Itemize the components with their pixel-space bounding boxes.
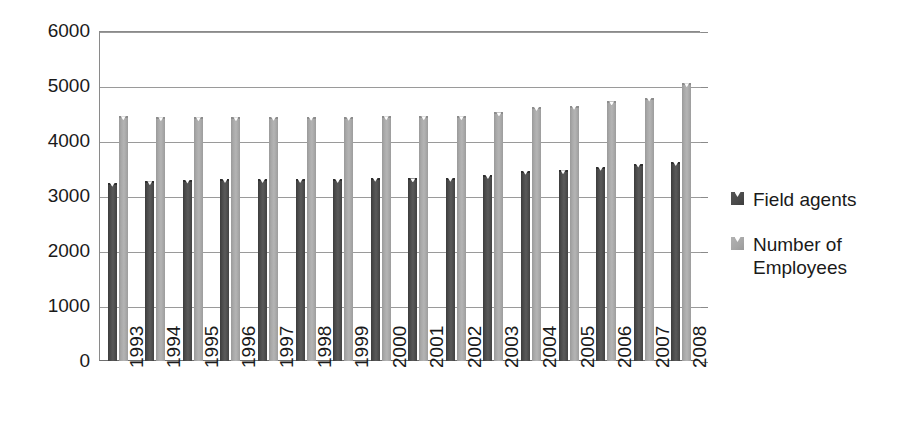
- x-axis-tick-value: 2002: [464, 326, 486, 368]
- bar: [307, 117, 316, 361]
- axis-tick: [701, 197, 708, 198]
- bar-group: [258, 31, 278, 361]
- bar: [494, 112, 503, 361]
- legend-label: Number of Employees: [753, 233, 896, 279]
- bar-top-notch-icon: [572, 106, 577, 110]
- bar-top-notch-icon: [598, 167, 603, 171]
- x-axis-tick-label: 2008: [670, 366, 692, 436]
- bar-group: [559, 31, 579, 361]
- bar: [532, 107, 541, 361]
- bar-group: [220, 31, 240, 361]
- swatch-notch-icon: [735, 237, 741, 242]
- bar: [344, 117, 353, 361]
- bar-group: [483, 31, 503, 361]
- bar-top-notch-icon: [147, 181, 152, 185]
- x-axis-tick-label: 1998: [295, 366, 317, 436]
- bar-top-notch-icon: [196, 117, 201, 121]
- bar-top-notch-icon: [448, 178, 453, 182]
- axis-tick: [701, 142, 708, 143]
- bar-top-notch-icon: [410, 178, 415, 182]
- x-axis-tick-label: 2005: [558, 366, 580, 436]
- bar-top-notch-icon: [373, 178, 378, 182]
- bar-chart: 0100020003000400050006000 19931994199519…: [0, 0, 902, 448]
- bar-group: [521, 31, 541, 361]
- x-axis-tick-labels: 1993199419951996199719981999200020012002…: [99, 366, 700, 446]
- bar-top-notch-icon: [185, 180, 190, 184]
- swatch-notch-icon: [735, 192, 741, 197]
- bar-top-notch-icon: [496, 112, 501, 116]
- bar-series-layer: [99, 31, 700, 361]
- bar-top-notch-icon: [421, 116, 426, 120]
- bar-top-notch-icon: [260, 179, 265, 183]
- bar: [194, 117, 203, 361]
- bar-top-notch-icon: [346, 117, 351, 121]
- bar-top-notch-icon: [309, 117, 314, 121]
- bar-group: [634, 31, 654, 361]
- dark-square-swatch: [731, 192, 744, 205]
- x-axis-tick-value: 2005: [577, 326, 599, 368]
- bar-group: [333, 31, 353, 361]
- bar-top-notch-icon: [110, 183, 115, 187]
- bar-top-notch-icon: [121, 116, 126, 120]
- legend-item[interactable]: Number of Employees: [731, 233, 896, 279]
- x-axis-tick-value: 1999: [351, 326, 373, 368]
- light-square-swatch: [731, 237, 744, 250]
- x-axis-tick-value: 2003: [501, 326, 523, 368]
- axis-tick: [701, 87, 708, 88]
- bar: [269, 117, 278, 361]
- x-axis-tick-value: 2004: [539, 326, 561, 368]
- bar-group: [671, 31, 691, 361]
- x-axis-tick-value: 2001: [426, 326, 448, 368]
- y-axis-tick-value: 4000: [48, 131, 90, 150]
- bar: [607, 101, 616, 361]
- x-axis-tick-label: 2002: [445, 366, 467, 436]
- x-axis-tick-label: 2003: [482, 366, 504, 436]
- x-axis-tick-label: 2000: [370, 366, 392, 436]
- bar-top-notch-icon: [459, 116, 464, 120]
- x-axis-tick-label: 1996: [219, 366, 241, 436]
- x-axis-tick-label: 2004: [520, 366, 542, 436]
- x-axis-tick-value: 1998: [314, 326, 336, 368]
- bar-group: [408, 31, 428, 361]
- y-axis-tick-value: 3000: [48, 186, 90, 205]
- x-axis-tick-value: 1995: [201, 326, 223, 368]
- bar: [419, 116, 428, 361]
- axis-tick: [701, 307, 708, 308]
- chart-legend: Field agentsNumber of Employees: [731, 188, 896, 301]
- x-axis-tick-value: 2007: [652, 326, 674, 368]
- bar-top-notch-icon: [534, 107, 539, 111]
- bar-top-notch-icon: [673, 162, 678, 166]
- bar: [119, 116, 128, 361]
- x-axis-tick-label: 1995: [182, 366, 204, 436]
- bar-top-notch-icon: [684, 83, 689, 87]
- bar: [570, 106, 579, 361]
- axis-tick: [701, 252, 708, 253]
- bar-top-notch-icon: [523, 171, 528, 175]
- bar: [457, 116, 466, 361]
- x-axis-tick-value: 1993: [126, 326, 148, 368]
- bar-group: [596, 31, 616, 361]
- x-axis-tick-label: 1993: [107, 366, 129, 436]
- legend-item[interactable]: Field agents: [731, 188, 896, 211]
- x-axis-tick-label: 2007: [633, 366, 655, 436]
- x-axis-tick-value: 1997: [276, 326, 298, 368]
- y-axis-tick-value: 1000: [48, 296, 90, 315]
- y-axis-tick-value: 0: [79, 351, 90, 370]
- x-axis-tick-value: 1996: [238, 326, 260, 368]
- x-axis-tick-label: 1994: [144, 366, 166, 436]
- y-axis-tick-value: 6000: [48, 21, 90, 40]
- x-axis-tick-value: 2008: [689, 326, 711, 368]
- x-axis-tick-value: 2006: [614, 326, 636, 368]
- x-axis-tick-value: 1994: [163, 326, 185, 368]
- bar: [156, 117, 165, 361]
- bar: [682, 83, 691, 361]
- bar-top-notch-icon: [485, 175, 490, 179]
- bar-top-notch-icon: [298, 179, 303, 183]
- bar-group: [446, 31, 466, 361]
- bar: [645, 98, 654, 361]
- bar-top-notch-icon: [636, 164, 641, 168]
- bar: [231, 117, 240, 361]
- y-axis-tick-value: 2000: [48, 241, 90, 260]
- y-axis-tick-value: 5000: [48, 76, 90, 95]
- x-axis-tick-label: 2001: [407, 366, 429, 436]
